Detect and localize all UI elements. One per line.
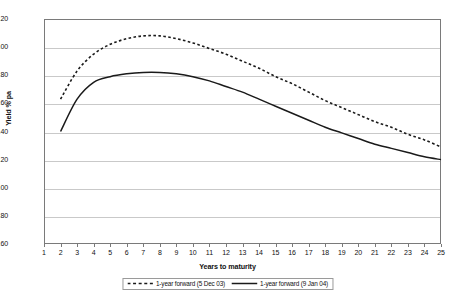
x-axis-tick-label: 9 (167, 249, 185, 257)
x-axis-tick-label: 3 (68, 249, 86, 257)
x-axis-tick-mark (391, 244, 392, 247)
x-axis-tick-label: 11 (200, 249, 218, 257)
y-axis-tick-label: 4.40 (0, 128, 8, 135)
x-axis-tick-mark (110, 244, 111, 247)
x-axis-tick-label: 23 (399, 249, 417, 257)
x-axis-tick-mark (375, 244, 376, 247)
x-axis-tick-mark (441, 244, 442, 247)
x-axis-tick-label: 8 (151, 249, 169, 257)
x-axis-tick-mark (342, 244, 343, 247)
x-axis-tick-label: 18 (316, 249, 334, 257)
y-axis-tick-label: 4.00 (0, 184, 8, 191)
x-axis-tick-label: 17 (300, 249, 318, 257)
legend-item-solid: 1-year forward (9 Jan 04) (231, 280, 328, 287)
legend-label-dashed: 1-year forward (5 Dec 03) (156, 280, 225, 287)
x-axis-tick-label: 22 (382, 249, 400, 257)
x-axis-tick-label: 10 (184, 249, 202, 257)
data-series-layer (44, 19, 441, 244)
x-axis-tick-mark (176, 244, 177, 247)
legend-swatch-dashed-icon (127, 280, 153, 287)
x-axis-tick-mark (243, 244, 244, 247)
x-axis-tick-mark (77, 244, 78, 247)
y-axis-tick-label: 5.20 (0, 15, 8, 22)
x-axis-tick-label: 20 (349, 249, 367, 257)
x-axis-tick-label: 5 (101, 249, 119, 257)
series-line-solid (61, 72, 441, 159)
x-axis-tick-mark (259, 244, 260, 247)
x-axis-tick-mark (127, 244, 128, 247)
x-axis-tick-label: 1 (35, 249, 53, 257)
y-axis-title: Yield % pa (4, 91, 13, 126)
x-axis-tick-label: 15 (267, 249, 285, 257)
x-axis-tick-mark (424, 244, 425, 247)
x-axis-tick-mark (61, 244, 62, 247)
x-axis-tick-label: 12 (217, 249, 235, 257)
chart-legend: 1-year forward (5 Dec 03) 1-year forward… (122, 278, 333, 290)
y-axis-tick-label: 4.20 (0, 156, 8, 163)
x-axis-tick-mark (160, 244, 161, 247)
x-axis-tick-label: 24 (415, 249, 433, 257)
x-axis-tick-mark (143, 244, 144, 247)
y-axis-tick-label: 3.80 (0, 212, 8, 219)
legend-label-solid: 1-year forward (9 Jan 04) (260, 280, 328, 287)
x-axis-tick-mark (358, 244, 359, 247)
x-axis-tick-mark (44, 244, 45, 247)
x-axis-tick-mark (226, 244, 227, 247)
x-axis-tick-label: 4 (85, 249, 103, 257)
x-axis-tick-mark (209, 244, 210, 247)
x-axis-tick-mark (193, 244, 194, 247)
x-axis-tick-mark (276, 244, 277, 247)
x-axis-tick-mark (292, 244, 293, 247)
x-axis-tick-mark (325, 244, 326, 247)
x-axis-tick-mark (94, 244, 95, 247)
x-axis-tick-mark (309, 244, 310, 247)
x-axis-tick-label: 25 (432, 249, 450, 257)
y-axis-tick-label: 4.80 (0, 71, 8, 78)
series-line-dashed (61, 36, 441, 147)
x-axis-tick-label: 13 (234, 249, 252, 257)
legend-item-dashed: 1-year forward (5 Dec 03) (127, 280, 225, 287)
x-axis-tick-label: 19 (333, 249, 351, 257)
x-axis-tick-label: 14 (250, 249, 268, 257)
y-axis-tick-label: 5.00 (0, 43, 8, 50)
x-axis-tick-label: 16 (283, 249, 301, 257)
x-axis-tick-label: 7 (134, 249, 152, 257)
x-axis-tick-label: 21 (366, 249, 384, 257)
y-axis-tick-label: 3.60 (0, 240, 8, 247)
x-axis-tick-label: 2 (52, 249, 70, 257)
x-axis-title: Years to maturity (0, 262, 455, 271)
x-axis-tick-mark (408, 244, 409, 247)
yield-curve-chart: 3.603.804.004.204.404.604.805.005.20 Yie… (0, 0, 455, 296)
legend-swatch-solid-icon (231, 280, 257, 287)
x-axis-tick-label: 6 (118, 249, 136, 257)
